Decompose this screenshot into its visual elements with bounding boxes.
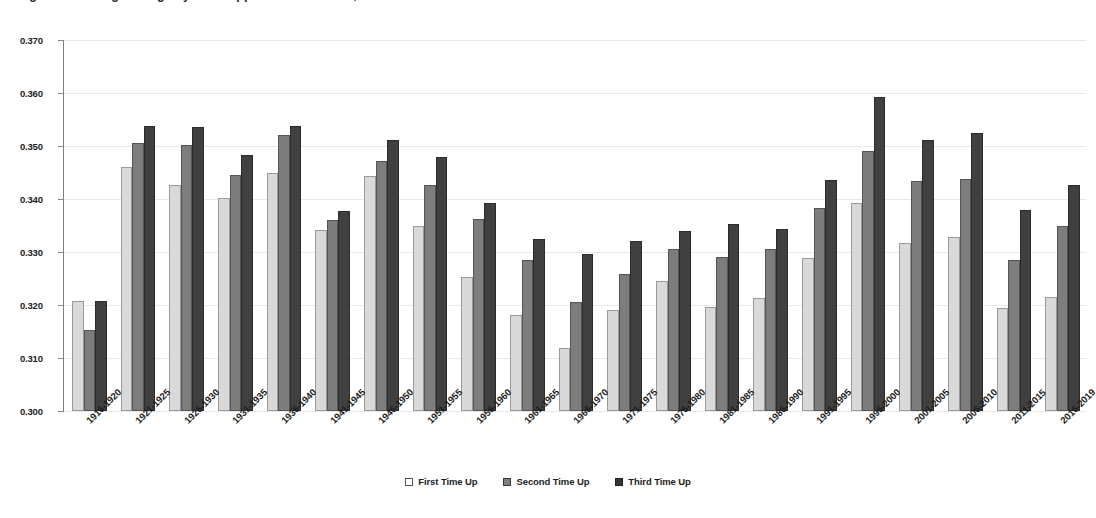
legend-item[interactable]: Second Time Up <box>503 476 589 487</box>
bar <box>510 315 522 411</box>
bar <box>851 203 863 411</box>
y-axis-tick-mark <box>58 146 63 147</box>
bar-group <box>72 40 107 411</box>
bar <box>874 97 886 411</box>
bar <box>169 185 181 411</box>
bar <box>72 301 84 411</box>
bar <box>387 140 399 411</box>
bar-group <box>997 40 1032 411</box>
bar <box>121 167 133 411</box>
bar <box>84 330 96 411</box>
bar <box>1020 210 1032 411</box>
bar <box>668 249 680 411</box>
y-axis-tick-mark <box>58 411 63 412</box>
bar-chart: Figure 4: Batting Average by Plate Appea… <box>0 0 1096 518</box>
legend-item[interactable]: First Time Up <box>405 476 477 487</box>
y-axis-tick-label: 0.370 <box>20 35 43 46</box>
bar <box>911 181 923 411</box>
bar-group <box>121 40 156 411</box>
bar-group <box>656 40 691 411</box>
bar-group <box>705 40 740 411</box>
bar-group <box>413 40 448 411</box>
bar <box>436 157 448 411</box>
bar-group <box>899 40 934 411</box>
y-axis-tick-mark <box>58 40 63 41</box>
y-axis-tick-mark <box>58 93 63 94</box>
bar-group <box>510 40 545 411</box>
bar <box>814 208 826 411</box>
bar-group <box>364 40 399 411</box>
legend-item[interactable]: Third Time Up <box>615 476 690 487</box>
bar <box>315 230 327 411</box>
bar <box>95 301 107 411</box>
bar <box>899 243 911 411</box>
bar-group <box>753 40 788 411</box>
bar <box>290 126 302 411</box>
bar <box>327 220 339 411</box>
bar-group <box>461 40 496 411</box>
y-axis-tick-mark <box>58 252 63 253</box>
bar <box>630 241 642 411</box>
bar <box>960 179 972 411</box>
bar-group <box>1045 40 1080 411</box>
bar <box>1068 185 1080 411</box>
bar <box>1008 260 1020 411</box>
bar <box>705 307 717 411</box>
bar <box>1057 226 1069 412</box>
y-axis-tick-label: 0.350 <box>20 141 43 152</box>
bar <box>192 127 204 411</box>
bar <box>776 229 788 411</box>
chart-title: Figure 4: Batting Average by Plate Appea… <box>18 0 1078 4</box>
chart-legend: First Time UpSecond Time UpThird Time Up <box>0 476 1096 487</box>
bar-group <box>169 40 204 411</box>
bar <box>825 180 837 411</box>
bar <box>181 145 193 411</box>
bar <box>716 257 728 411</box>
y-axis-tick-mark <box>58 305 63 306</box>
bar <box>461 277 473 411</box>
bar <box>473 219 485 411</box>
bar <box>922 140 934 411</box>
bar <box>376 161 388 411</box>
bar <box>971 133 983 411</box>
legend-swatch-icon <box>405 478 413 486</box>
bar <box>230 175 242 411</box>
y-axis-tick-label: 0.320 <box>20 300 43 311</box>
bar <box>802 258 814 411</box>
bar <box>679 231 691 411</box>
bar <box>533 239 545 411</box>
y-axis-tick-label: 0.330 <box>20 247 43 258</box>
plot-area <box>64 40 1086 411</box>
bar-group <box>851 40 886 411</box>
legend-label: Third Time Up <box>628 476 690 487</box>
bar <box>413 226 425 412</box>
y-axis-tick-label: 0.300 <box>20 406 43 417</box>
bar <box>997 308 1009 411</box>
bar <box>728 224 740 411</box>
legend-swatch-icon <box>503 478 511 486</box>
bar <box>132 143 144 411</box>
bar <box>144 126 156 411</box>
bar <box>862 151 874 411</box>
bar <box>948 237 960 411</box>
bar <box>559 348 571 411</box>
y-axis-tick-label: 0.340 <box>20 194 43 205</box>
bar <box>364 176 376 411</box>
bar <box>218 198 230 411</box>
bar-group <box>948 40 983 411</box>
bar <box>765 249 777 411</box>
bar-group <box>607 40 642 411</box>
legend-label: Second Time Up <box>516 476 589 487</box>
bar <box>424 185 436 411</box>
y-axis-tick-label: 0.310 <box>20 353 43 364</box>
y-axis-tick-mark <box>58 358 63 359</box>
bar <box>241 155 253 411</box>
bar <box>582 254 594 411</box>
bar <box>338 211 350 411</box>
y-axis-tick-label: 0.360 <box>20 88 43 99</box>
bar-group <box>315 40 350 411</box>
bar-group <box>218 40 253 411</box>
bar <box>267 173 279 412</box>
bar <box>522 260 534 411</box>
bar <box>484 203 496 411</box>
